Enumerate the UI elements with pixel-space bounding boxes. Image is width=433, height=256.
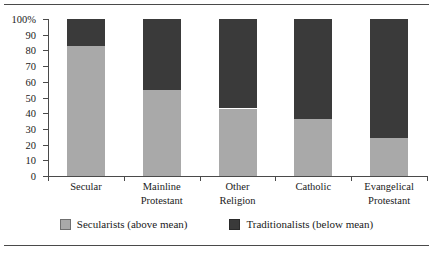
x-axis-category-labels: SecularMainlineProtestantOtherReligionCa… xyxy=(48,180,427,214)
y-tick-label: 20 xyxy=(26,140,37,151)
y-tick-label: 10 xyxy=(26,156,37,167)
legend-item-traditionalists: Traditionalists (below mean) xyxy=(229,219,373,230)
category-label-line: Protestant xyxy=(351,194,427,208)
bar-segment-traditionalists xyxy=(294,19,332,119)
bar-group xyxy=(143,19,181,176)
category-label-line: Secular xyxy=(48,180,124,194)
legend-label-traditionalists: Traditionalists (below mean) xyxy=(246,219,373,230)
bar-segment-traditionalists xyxy=(143,19,181,90)
y-tick-label: 30 xyxy=(26,125,37,136)
x-tick xyxy=(427,176,428,181)
bar-segment-secularists xyxy=(67,46,105,176)
stacked-bar-chart-figure: 0102030405060708090100% SecularMainlineP… xyxy=(0,0,433,256)
category-label-line: Protestant xyxy=(124,194,200,208)
plot-area: 0102030405060708090100% xyxy=(48,19,427,176)
x-axis-category-label: EvangelicalProtestant xyxy=(351,180,427,207)
x-axis-category-label: Catholic xyxy=(275,180,351,194)
category-label-line: Religion xyxy=(200,194,276,208)
legend-swatch-secularists-icon xyxy=(60,219,71,230)
bar-segment-traditionalists xyxy=(370,19,408,138)
bar-group xyxy=(294,19,332,176)
legend-swatch-traditionalists-icon xyxy=(229,219,240,230)
y-tick-label: 100% xyxy=(12,15,37,26)
y-tick-label: 0 xyxy=(31,172,36,183)
bar-segment-traditionalists xyxy=(67,19,105,46)
bar-group xyxy=(370,19,408,176)
y-tick-label: 70 xyxy=(26,62,37,73)
x-axis-category-label: MainlineProtestant xyxy=(124,180,200,207)
category-label-line: Mainline xyxy=(124,180,200,194)
bar-segment-secularists xyxy=(370,138,408,176)
bar-group xyxy=(219,19,257,176)
category-label-line: Catholic xyxy=(275,180,351,194)
x-axis-line xyxy=(48,176,427,177)
top-divider-rule xyxy=(4,4,429,5)
category-label-line: Evangelical xyxy=(351,180,427,194)
y-tick-label: 50 xyxy=(26,93,37,104)
y-tick-label: 90 xyxy=(26,30,37,41)
legend-item-secularists: Secularists (above mean) xyxy=(60,219,188,230)
y-tick-label: 40 xyxy=(26,109,37,120)
y-tick-label: 60 xyxy=(26,78,37,89)
x-axis-category-label: OtherReligion xyxy=(200,180,276,207)
bar-segment-traditionalists xyxy=(219,19,257,108)
chart-legend: Secularists (above mean) Traditionalists… xyxy=(0,219,433,230)
legend-label-secularists: Secularists (above mean) xyxy=(77,219,188,230)
x-axis-category-label: Secular xyxy=(48,180,124,194)
bars-container xyxy=(48,19,427,176)
bar-segment-secularists xyxy=(219,109,257,177)
bar-segment-secularists xyxy=(143,90,181,176)
bar-group xyxy=(67,19,105,176)
bar-segment-secularists xyxy=(294,119,332,176)
bottom-divider-rule xyxy=(4,245,429,246)
category-label-line: Other xyxy=(200,180,276,194)
y-tick-label: 80 xyxy=(26,46,37,57)
